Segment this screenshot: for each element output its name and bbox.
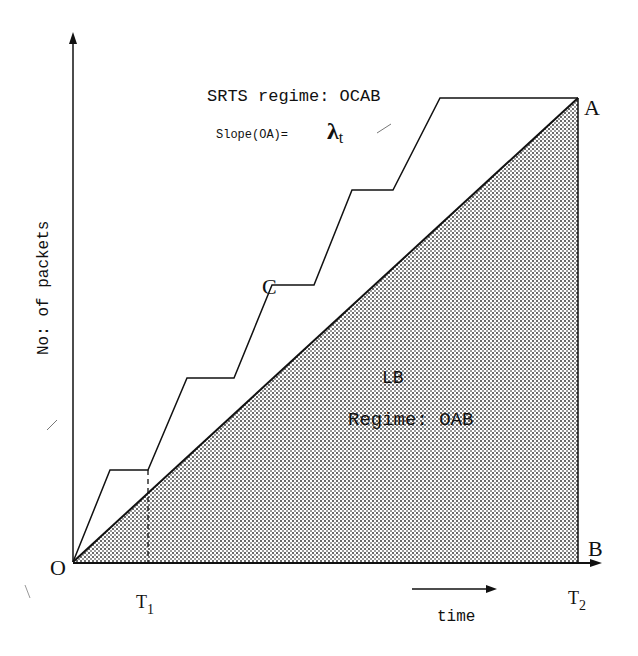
lb-regime-label: Regime: OAB <box>348 409 473 431</box>
point-c-label: C <box>262 274 277 299</box>
t1-label: T1 <box>136 592 154 617</box>
y-axis-arrow-icon <box>69 32 77 44</box>
slope-label: Slope(OA)= <box>216 128 288 142</box>
x-axis-label: time <box>437 608 475 626</box>
time-arrow-icon <box>486 585 497 593</box>
srts-regime-label: SRTS regime: OCAB <box>207 87 380 106</box>
t2-label: T2 <box>568 588 586 613</box>
packet-regime-diagram: No: of packets O A B C T1 T2 time SRTS r… <box>0 0 638 656</box>
stray-mark <box>377 124 391 133</box>
stray-mark <box>47 420 57 430</box>
lb-label: LB <box>382 368 404 388</box>
origin-label: O <box>50 555 66 580</box>
point-b-label: B <box>588 536 603 561</box>
lambda-symbol: λt <box>327 118 344 146</box>
y-axis-label: No: of packets <box>35 221 53 355</box>
stray-mark <box>25 585 30 598</box>
point-a-label: A <box>584 95 600 120</box>
